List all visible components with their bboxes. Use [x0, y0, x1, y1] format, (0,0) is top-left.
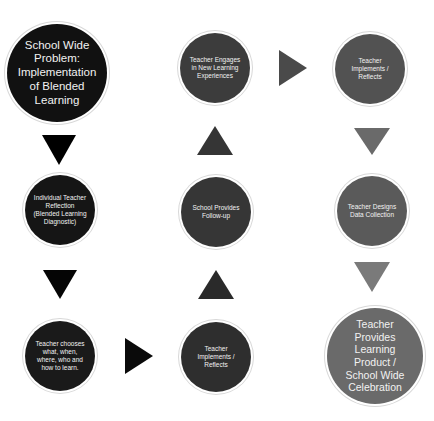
- node-label: Teacher Provides Learning Product / Scho…: [337, 318, 413, 394]
- node-teacher-implements-reflects-1: Teacher Implements / Reflects: [181, 322, 251, 392]
- node-label: Teacher Implements / Reflects: [347, 57, 393, 80]
- arrow-down-icon: [354, 128, 390, 155]
- node-teacher-designs-data-collection: Teacher Designs Data Collection: [337, 176, 407, 246]
- arrow-up-icon: [197, 126, 233, 155]
- node-teacher-engages: Teacher Engages in New Learning Experien…: [180, 33, 250, 103]
- node-teacher-implements-reflects-2: Teacher Implements / Reflects: [335, 34, 405, 104]
- node-teacher-provides-learning-product: Teacher Provides Learning Product / Scho…: [327, 308, 423, 404]
- arrow-up-icon: [198, 270, 234, 299]
- node-teacher-chooses: Teacher chooses what, when, where, who a…: [25, 321, 95, 391]
- node-label: Teacher Engages in New Learning Experien…: [188, 56, 242, 79]
- arrow-down-icon: [42, 135, 76, 165]
- arrow-right-icon: [279, 50, 307, 86]
- node-label: School Provides Follow-up: [189, 204, 243, 220]
- node-label: Individual Teacher Reflection (Blended L…: [33, 194, 87, 225]
- node-school-provides-followup: School Provides Follow-up: [181, 177, 251, 247]
- arrow-right-icon: [125, 338, 153, 374]
- node-individual-teacher-reflection: Individual Teacher Reflection (Blended L…: [25, 175, 95, 245]
- node-label: School Wide Problem: Implementation of B…: [13, 39, 101, 108]
- node-label: Teacher chooses what, when, where, who a…: [33, 340, 87, 371]
- arrow-down-icon: [43, 270, 77, 299]
- node-label: Teacher Implements / Reflects: [191, 345, 241, 368]
- node-school-wide-problem: School Wide Problem: Implementation of B…: [7, 24, 107, 122]
- node-label: Teacher Designs Data Collection: [345, 203, 399, 219]
- arrow-down-icon: [354, 262, 390, 292]
